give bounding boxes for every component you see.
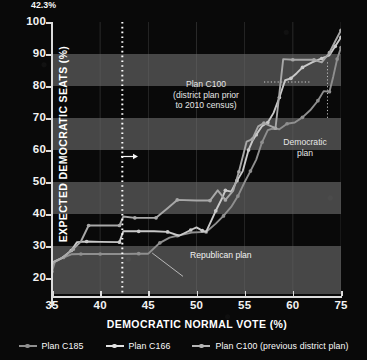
y-tick-label: 100 <box>22 15 46 27</box>
data-point <box>312 58 316 62</box>
data-point <box>262 121 266 125</box>
annotation-dem-line2: plan <box>297 148 313 158</box>
x-tick-label: 40 <box>83 299 117 311</box>
data-point <box>224 188 228 192</box>
x-axis-title: DEMOCRATIC NORMAL VOTE (%) <box>52 318 342 330</box>
x-tick-mark <box>52 291 54 296</box>
data-point <box>251 137 255 141</box>
x-tick-mark <box>148 291 150 296</box>
data-point <box>189 228 193 232</box>
reference-line-label: 42.3% <box>0 0 56 10</box>
x-tick-label: 50 <box>180 299 214 311</box>
data-point <box>79 252 83 256</box>
y-tick-label: 30 <box>22 239 46 251</box>
x-tick-label: 60 <box>276 299 310 311</box>
data-point <box>224 198 228 202</box>
data-point <box>118 240 122 244</box>
data-point <box>249 169 253 173</box>
data-point <box>289 76 293 80</box>
y-tick-mark <box>46 54 51 56</box>
data-point <box>158 241 162 245</box>
data-point <box>175 198 179 202</box>
chart-legend: Plan C185Plan C166Plan C100 (previous di… <box>0 337 367 355</box>
y-tick-mark <box>46 118 51 120</box>
x-axis-line <box>52 296 342 298</box>
y-tick-label: 80 <box>22 79 46 91</box>
annotation-c100-line1: Plan C100 <box>186 79 226 89</box>
annotation-c100-line3: to 2010 census) <box>175 100 236 110</box>
data-point <box>166 230 170 234</box>
data-point <box>335 57 339 61</box>
x-tick-mark <box>245 291 247 296</box>
legend-marker-dot <box>25 344 30 349</box>
data-point <box>85 240 89 244</box>
data-point <box>301 116 305 120</box>
data-point <box>328 51 332 55</box>
data-point <box>339 46 341 50</box>
legend-label: Plan C100 (previous district plan) <box>215 341 348 351</box>
data-point <box>222 214 226 218</box>
y-tick-label: 90 <box>22 47 46 59</box>
data-point <box>274 126 278 130</box>
leader-line-republican <box>152 253 183 276</box>
y-tick-label: 70 <box>22 111 46 123</box>
data-point <box>133 216 137 220</box>
data-point <box>208 199 212 203</box>
reference-line-arrow-icon <box>121 152 138 161</box>
legend-label: Plan C185 <box>42 341 84 351</box>
y-tick-label: 50 <box>22 175 46 187</box>
legend-item[interactable]: Plan C100 (previous district plan) <box>192 341 348 351</box>
data-point <box>87 224 91 228</box>
y-axis-line <box>51 22 53 307</box>
x-tick-mark <box>100 291 102 296</box>
legend-item[interactable]: Plan C166 <box>106 341 171 351</box>
y-tick-label-wrap: 100 <box>0 15 46 29</box>
chart-root: 2030405060708090100 35404550556075 EXPEC… <box>0 0 367 360</box>
legend-marker-icon <box>106 342 124 351</box>
data-point <box>316 99 320 103</box>
y-axis-title: EXPECTED DEMOCRATIC SEATS (%) <box>57 39 69 249</box>
y-tick-label: 40 <box>22 207 46 219</box>
legend-label: Plan C166 <box>129 341 171 351</box>
data-point <box>98 252 102 256</box>
legend-marker-icon <box>19 342 37 351</box>
annotation-plan-c100: Plan C100 (district plan prior to 2010 c… <box>150 79 262 111</box>
y-tick-label: 20 <box>22 271 46 283</box>
y-tick-mark <box>46 150 51 152</box>
annotation-dem-line1: Democratic <box>283 137 326 147</box>
x-tick-mark <box>341 291 343 296</box>
data-point <box>137 229 141 233</box>
data-point <box>247 148 251 152</box>
data-point <box>200 229 204 233</box>
y-tick-mark <box>46 182 51 184</box>
y-axis-title-host: EXPECTED DEMOCRATIC SEATS (%) <box>2 30 22 280</box>
x-tick-label: 35 <box>35 299 69 311</box>
y-tick-label: 60 <box>22 143 46 155</box>
data-point <box>118 224 122 228</box>
x-tick-label: 55 <box>228 299 262 311</box>
y-tick-mark <box>46 278 51 280</box>
data-point <box>214 209 218 213</box>
data-point <box>154 216 158 220</box>
legend-marker-dot <box>199 344 204 349</box>
y-tick-mark <box>46 22 51 24</box>
legend-marker-icon <box>192 342 210 351</box>
data-point <box>328 90 332 94</box>
data-point <box>301 66 305 70</box>
x-tick-mark <box>197 291 199 296</box>
x-tick-mark <box>293 291 295 296</box>
data-point <box>237 170 241 174</box>
annotation-democratic-plan: Democratic plan <box>272 137 338 158</box>
y-tick-mark <box>46 214 51 216</box>
data-point <box>260 140 264 144</box>
x-tick-label: 45 <box>131 299 165 311</box>
data-point <box>291 58 295 62</box>
annotation-c100-line2: (district plan prior <box>173 90 239 100</box>
y-tick-mark <box>46 86 51 88</box>
legend-marker-dot <box>112 344 117 349</box>
annotation-republican-plan: Republican plan <box>190 250 270 261</box>
data-point <box>285 122 289 126</box>
data-point <box>236 194 240 198</box>
legend-item[interactable]: Plan C185 <box>19 341 84 351</box>
x-tick-label: 75 <box>324 299 358 311</box>
